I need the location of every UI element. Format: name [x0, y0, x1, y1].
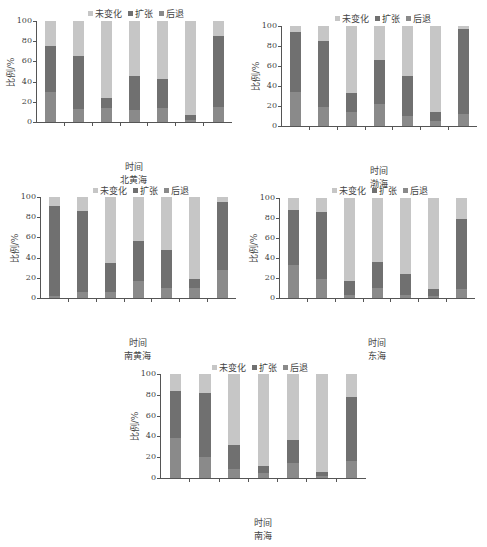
y-axis-label: 比例/%: [4, 57, 17, 87]
bar-segment-expand: [290, 32, 301, 92]
y-tick-mark: [37, 197, 40, 198]
legend-item-retreat: 后退: [159, 7, 184, 20]
bar-segment-expand: [458, 29, 469, 114]
bar-segment-unchanged: [316, 374, 328, 472]
plot-area: [40, 197, 236, 299]
bar-segment-retreat: [458, 114, 469, 126]
stacked-bar: [430, 26, 441, 126]
y-tick-label: 80: [18, 212, 36, 221]
x-tick-mark: [446, 299, 447, 302]
y-tick-mark: [276, 298, 279, 299]
y-tick-label: 0: [259, 121, 277, 130]
bar-segment-unchanged: [372, 198, 383, 262]
bar-segment-retreat: [45, 92, 56, 122]
stacked-bar: [288, 198, 299, 298]
bar-segment-expand: [288, 210, 299, 265]
y-tick-mark: [157, 478, 160, 479]
bar-segment-unchanged: [346, 374, 358, 397]
stacked-bar: [318, 26, 329, 126]
bar-segment-retreat: [217, 270, 228, 298]
bar-segment-retreat: [228, 469, 240, 478]
legend-swatch-icon: [283, 365, 288, 370]
x-tick-mark: [248, 479, 249, 482]
legend-swatch-icon: [93, 188, 98, 193]
bar-segment-retreat: [157, 108, 168, 122]
bar-segment-retreat: [105, 292, 116, 298]
bar-segment-expand: [400, 274, 411, 295]
bar-segment-retreat: [346, 461, 358, 478]
stacked-bar: [456, 198, 467, 298]
x-tick-mark: [335, 299, 336, 302]
plot-area: [279, 198, 475, 299]
legend-item-expand: 扩张: [133, 184, 158, 197]
bar-segment-expand: [402, 76, 413, 116]
y-tick-mark: [157, 457, 160, 458]
y-tick-mark: [276, 218, 279, 219]
chart-legend: 未变化扩张后退: [93, 184, 189, 197]
y-tick-label: 80: [138, 390, 156, 399]
legend-item-unchanged: 未变化: [332, 184, 366, 197]
y-tick-mark: [278, 106, 281, 107]
bar-segment-retreat: [290, 92, 301, 126]
bar-segment-expand: [129, 76, 140, 110]
stacked-bar: [161, 197, 172, 298]
x-tick-mark: [420, 127, 421, 130]
x-tick-mark: [64, 123, 65, 126]
stacked-bar: [428, 198, 439, 298]
stacked-bar: [346, 26, 357, 126]
y-tick-mark: [33, 21, 36, 22]
x-tick-mark: [365, 127, 366, 130]
bar-segment-unchanged: [428, 198, 439, 289]
bar-segment-expand: [133, 241, 144, 280]
y-tick-mark: [276, 278, 279, 279]
bar-segment-retreat: [344, 295, 355, 298]
y-tick-mark: [157, 395, 160, 396]
stacked-bar: [213, 21, 224, 122]
bar-segment-expand: [228, 445, 240, 469]
bar-segment-retreat: [185, 120, 196, 122]
y-tick-label: 20: [257, 273, 275, 282]
stacked-bar: [402, 26, 413, 126]
bar-segment-unchanged: [374, 26, 385, 60]
y-tick-mark: [278, 66, 281, 67]
plot-area: [281, 26, 477, 127]
y-tick-mark: [37, 217, 40, 218]
bar-segment-unchanged: [189, 197, 200, 279]
bar-segment-unchanged: [161, 197, 172, 250]
x-tick-mark: [418, 299, 419, 302]
bar-segment-expand: [346, 397, 358, 461]
bar-segment-expand: [318, 41, 329, 107]
stacked-bar: [45, 21, 56, 122]
legend-label: 扩张: [382, 12, 400, 25]
y-tick-label: 0: [14, 117, 32, 126]
legend-item-retreat: 后退: [403, 184, 428, 197]
bar-segment-unchanged: [170, 374, 182, 391]
bar-segment-unchanged: [316, 198, 327, 212]
y-tick-mark: [278, 86, 281, 87]
y-tick-mark: [276, 258, 279, 259]
bar-segment-unchanged: [456, 198, 467, 219]
bar-segment-retreat: [430, 121, 441, 126]
y-tick-mark: [157, 436, 160, 437]
bar-segment-expand: [170, 391, 182, 439]
y-tick-mark: [37, 258, 40, 259]
bar-segment-retreat: [199, 457, 211, 478]
legend-label: 未变化: [342, 12, 369, 25]
x-axis-title: 时间: [114, 160, 154, 173]
y-tick-mark: [278, 26, 281, 27]
bar-segment-retreat: [73, 109, 84, 122]
legend-swatch-icon: [335, 16, 340, 21]
bar-segment-unchanged: [288, 198, 299, 210]
bar-segment-retreat: [374, 104, 385, 126]
x-tick-mark: [390, 299, 391, 302]
legend-label: 扩张: [140, 184, 158, 197]
x-tick-mark: [306, 479, 307, 482]
legend-swatch-icon: [212, 365, 217, 370]
y-axis-label: 比例/%: [249, 62, 262, 92]
stacked-bar: [344, 198, 355, 298]
y-tick-label: 100: [259, 21, 277, 30]
bar-segment-retreat: [101, 108, 112, 122]
stacked-bar: [49, 197, 60, 298]
bar-segment-unchanged: [287, 374, 299, 440]
bar-segment-unchanged: [258, 374, 270, 466]
